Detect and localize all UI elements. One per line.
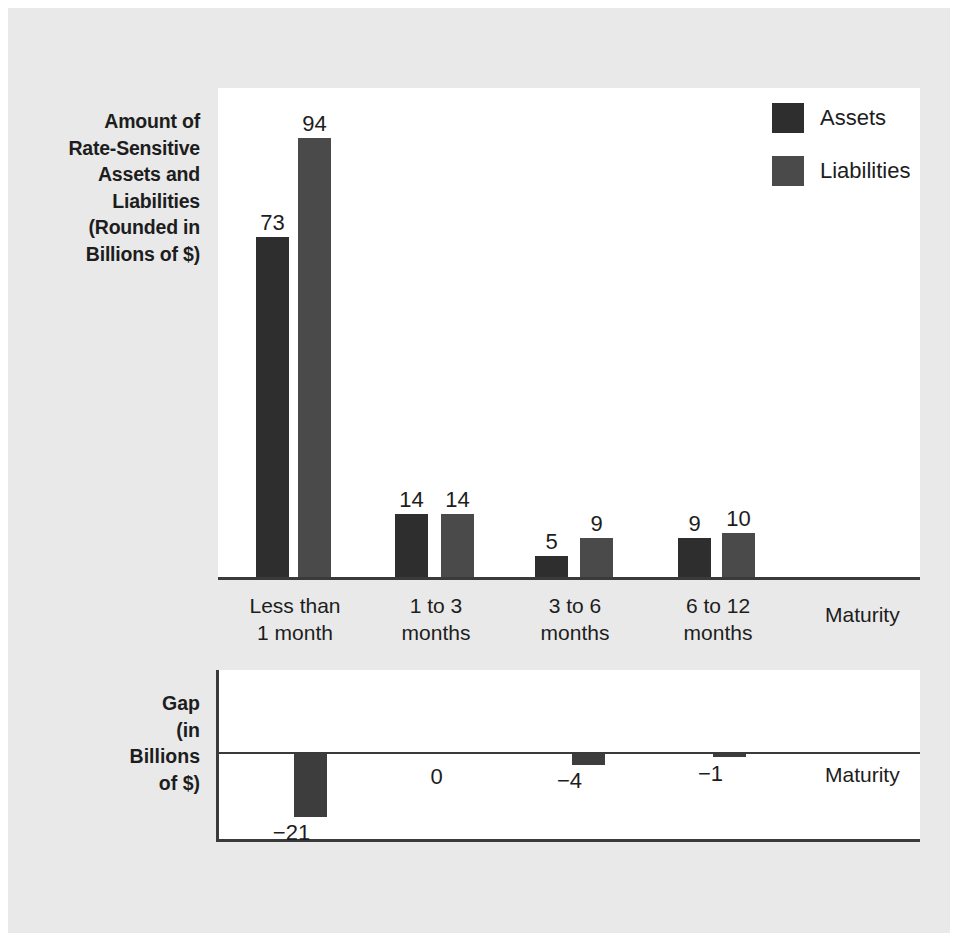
y-label-line-1: Amount of (20, 108, 200, 135)
category-label-less-than-1-month: Less than 1 month (215, 592, 375, 646)
bar-liabilities-6-to-12-months (722, 533, 755, 580)
legend-swatch-assets (772, 103, 804, 133)
gap-chart-plot-area (216, 670, 920, 842)
category-label-6-to-12-months: 6 to 12 months (638, 592, 798, 646)
top-chart-plot-area: Assets Liabilities 73 94 14 14 5 9 9 10 (218, 88, 920, 580)
y-label-line-5: (Rounded in (20, 214, 200, 241)
gap-y-label-line-3: Billions (20, 743, 200, 770)
category-label-line-1: 6 to 12 (638, 592, 798, 619)
bar-liabilities-3-to-6-months (580, 538, 613, 580)
bar-liabilities-less-than-1-month (298, 138, 331, 580)
gap-chart-y-axis-label: Gap (in Billions of $) (20, 690, 200, 796)
category-label-3-to-6-months: 3 to 6 months (495, 592, 655, 646)
bar-assets-less-than-1-month (256, 237, 289, 580)
bar-liabilities-1-to-3-months (441, 514, 474, 580)
legend-swatch-liabilities (772, 156, 804, 186)
bar-assets-6-to-12-months (678, 538, 711, 580)
category-label-1-to-3-months: 1 to 3 months (356, 592, 516, 646)
bar-value-liabilities-3-to-6-months: 9 (565, 513, 628, 535)
gap-value-6-to-12-months: −1 (678, 763, 743, 785)
bar-assets-1-to-3-months (395, 514, 428, 580)
category-label-line-1: 1 to 3 (356, 592, 516, 619)
gap-value-1-to-3-months: 0 (404, 766, 469, 788)
category-label-line-2: 1 month (215, 619, 375, 646)
legend-item-assets: Assets (772, 103, 932, 156)
y-label-line-3: Assets and (20, 161, 200, 188)
y-label-line-4: Liabilities (20, 188, 200, 215)
category-label-line-1: Less than (215, 592, 375, 619)
category-label-line-2: months (356, 619, 516, 646)
y-label-line-2: Rate-Sensitive (20, 135, 200, 162)
category-label-line-2: months (638, 619, 798, 646)
category-label-line-1: 3 to 6 (495, 592, 655, 619)
legend-label-liabilities: Liabilities (820, 158, 911, 184)
bar-value-liabilities-6-to-12-months: 10 (707, 508, 770, 530)
bar-value-assets-less-than-1-month: 73 (241, 212, 304, 234)
legend: Assets Liabilities (772, 103, 932, 209)
gap-value-less-than-1-month: −21 (259, 822, 324, 844)
top-chart-x-axis (218, 577, 920, 580)
y-label-line-6: Billions of $) (20, 241, 200, 268)
gap-bar-less-than-1-month (294, 752, 327, 817)
gap-y-label-line-2: (in (20, 717, 200, 744)
gap-chart-x-axis-label: Maturity (825, 763, 900, 787)
category-label-line-2: months (495, 619, 655, 646)
gap-y-label-line-4: of $) (20, 770, 200, 797)
bar-value-liabilities-1-to-3-months: 14 (426, 489, 489, 511)
gap-y-label-line-1: Gap (20, 690, 200, 717)
top-chart-x-axis-label: Maturity (825, 603, 900, 627)
chart-page: Assets Liabilities 73 94 14 14 5 9 9 10 … (0, 0, 958, 941)
gap-value-3-to-6-months: −4 (537, 770, 602, 792)
gap-chart-zero-line (216, 752, 920, 754)
legend-item-liabilities: Liabilities (772, 156, 932, 209)
top-chart-y-axis-label: Amount of Rate-Sensitive Assets and Liab… (20, 108, 200, 267)
legend-label-assets: Assets (820, 105, 886, 131)
bar-value-liabilities-less-than-1-month: 94 (283, 113, 346, 135)
